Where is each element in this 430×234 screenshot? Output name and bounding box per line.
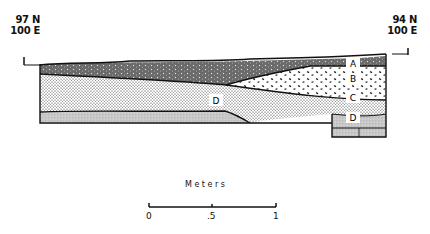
scale-tick-0: 0 xyxy=(146,211,152,221)
scale-bar xyxy=(149,203,276,207)
scale-tick-half: .5 xyxy=(207,211,216,221)
datum-stake-left xyxy=(24,57,40,65)
scale-title: Meters xyxy=(185,180,227,189)
layer-label-d-left: D xyxy=(213,96,220,106)
layer-label-c: C xyxy=(350,93,356,103)
layer-label-a: A xyxy=(350,59,357,69)
layer-d-left xyxy=(40,111,250,123)
layer-label-b: B xyxy=(350,74,356,84)
scale-tick-1: 1 xyxy=(273,211,279,221)
datum-stake-right xyxy=(392,48,408,55)
stratigraphic-profile: A B C D D xyxy=(0,0,430,234)
layer-label-d-right: D xyxy=(350,113,357,123)
